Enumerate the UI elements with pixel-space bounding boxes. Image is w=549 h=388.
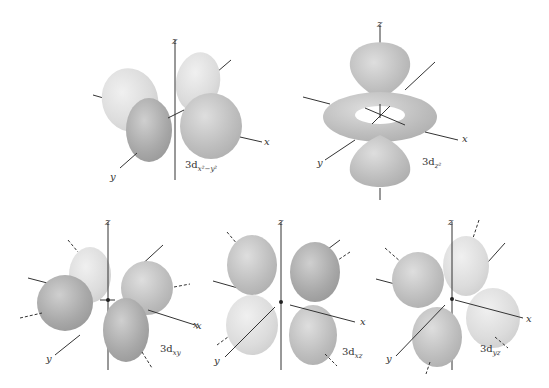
lobe-front-left	[126, 98, 172, 162]
lobe-top	[350, 42, 410, 100]
lobe-front-right	[180, 93, 242, 159]
label-y: y	[316, 157, 323, 168]
origin-dot	[279, 300, 283, 304]
axis-y	[55, 335, 80, 355]
label-x-left: x	[193, 319, 199, 330]
origin-dot	[106, 298, 110, 302]
orbital-figure: z x y 3dx²−y² z x y 3dz²	[0, 0, 549, 388]
axis-neg-y	[488, 243, 505, 262]
dash-bottom	[142, 352, 152, 368]
dash-bottom-left	[217, 337, 228, 345]
label-z: z	[171, 35, 178, 46]
label-x: x	[360, 316, 366, 327]
orbital-label-dxz: 3dxz	[342, 346, 363, 360]
axis-x	[240, 137, 262, 142]
panel-dz2: z x y 3dz²	[303, 18, 468, 200]
label-z: z	[277, 216, 284, 227]
label-y: y	[213, 355, 220, 366]
lobe-bottom-left	[226, 295, 278, 355]
axis-y	[120, 153, 137, 168]
lobe-back-right	[466, 288, 520, 348]
dash-right	[174, 284, 190, 287]
dash-top	[473, 220, 479, 238]
dash-bottom-right	[325, 354, 337, 366]
panel-dyz: z x y 3dyz	[376, 216, 532, 374]
axis-neg-x	[303, 97, 330, 104]
panel-dx2-y2: z x y 3dx²−y²	[93, 35, 270, 182]
label-x: x	[264, 136, 270, 147]
axis-x	[425, 132, 458, 140]
label-z: z	[104, 216, 111, 227]
lobe-left	[392, 252, 444, 308]
lobe-bottom	[412, 307, 462, 367]
lobe-top	[443, 236, 489, 296]
orbital-label-dx2-y2: 3dx²−y²	[185, 159, 217, 173]
panel-dxy: z x y 3dxy	[20, 216, 202, 370]
lobe-top-right	[290, 242, 340, 302]
label-y: y	[385, 353, 392, 364]
label-y: y	[109, 171, 116, 182]
label-z: z	[376, 18, 383, 29]
lobe-top-left	[227, 235, 277, 295]
label-z: z	[447, 216, 454, 227]
axis-x	[148, 310, 195, 325]
orbital-label-dz2: 3dz²	[422, 156, 441, 170]
label-y: y	[45, 353, 52, 364]
label-x: x	[526, 313, 532, 324]
dash-left	[385, 248, 401, 262]
orbital-label-dxy: 3dxy	[160, 343, 182, 357]
origin-dot	[450, 297, 454, 301]
label-x: x	[462, 133, 468, 144]
panel-dxz: z x y x 3dxz	[193, 216, 366, 370]
dash-left	[20, 313, 42, 318]
axis-y	[325, 140, 355, 160]
lobe-front-left	[37, 275, 93, 331]
dash-back-left	[68, 240, 78, 252]
lobe-bottom-right	[289, 305, 337, 365]
lobe-bottom	[350, 135, 411, 187]
